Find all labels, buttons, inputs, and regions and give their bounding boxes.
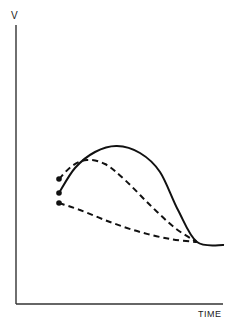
start-point-marker (56, 200, 62, 206)
y-axis-label: V (11, 10, 18, 21)
x-axis-label: TIME (198, 309, 222, 319)
curve-2 (59, 160, 197, 242)
start-point-marker (56, 190, 62, 196)
start-point-marker (56, 176, 62, 182)
chart-canvas (0, 0, 234, 331)
